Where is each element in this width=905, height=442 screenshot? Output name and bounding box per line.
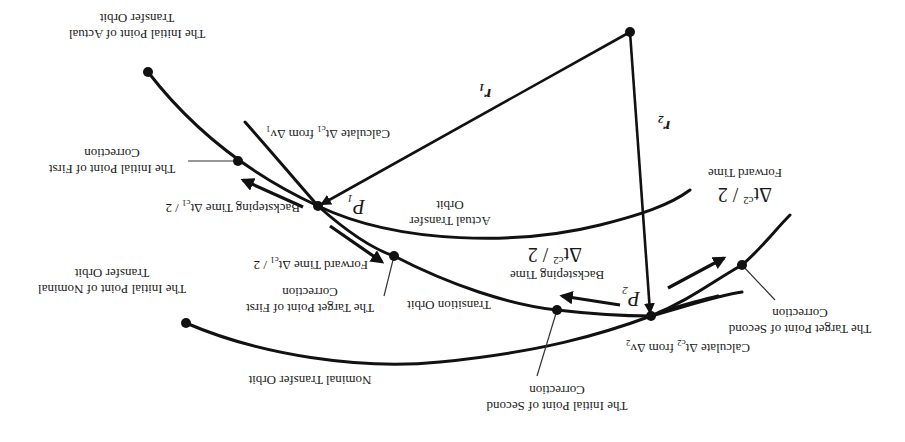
radius-vector-r1 — [322, 32, 630, 204]
label-backstep-2: Backsteping Time Δtc2 / 2 — [510, 244, 604, 283]
point-p2 — [646, 311, 656, 321]
target-point-first-correction — [389, 251, 399, 261]
svg-text:Calculate Δtc1 from Δv1: Calculate Δtc1 from Δv1 — [266, 124, 390, 142]
backstep-arrow-2 — [562, 296, 620, 305]
leader-target-second — [742, 265, 775, 300]
initial-point-first-correction — [233, 156, 243, 166]
svg-text:P1: P1 — [347, 193, 366, 218]
label-initial-second-correction: The Initial Point of Second Correction — [486, 383, 627, 414]
label-r1: r1 — [479, 82, 491, 104]
label-nominal-orbit: Nominal Transfer Orbit — [248, 373, 371, 388]
svg-text:Δtc2 / 2: Δtc2 / 2 — [718, 184, 772, 207]
label-forward-2: Forward Time Δtc2 / 2 — [708, 166, 782, 207]
svg-text:The Initial Point of Second: The Initial Point of Second — [486, 399, 627, 414]
label-calc-1: Calculate Δtc1 from Δv1 — [266, 124, 390, 142]
label-target-second-correction: The Target Point of Second Correction — [728, 306, 871, 337]
svg-text:Transfer Orbit: Transfer Orbit — [74, 266, 149, 281]
svg-text:Forward Time Δtc1 / 2: Forward Time Δtc1 / 2 — [254, 255, 368, 273]
orbit-correction-diagram: The Initial Point of Actual Transfer Orb… — [0, 0, 905, 442]
svg-text:r2: r2 — [657, 114, 670, 136]
svg-text:Transition Orbit: Transition Orbit — [407, 298, 491, 313]
svg-text:Forward Time: Forward Time — [708, 166, 782, 181]
leader-initial-second — [537, 310, 557, 376]
svg-text:The Initial Point of Actual: The Initial Point of Actual — [68, 27, 205, 42]
focus-point — [625, 27, 635, 37]
svg-text:Correction: Correction — [529, 383, 585, 398]
labels: The Initial Point of Actual Transfer Orb… — [38, 11, 872, 414]
label-r2: r2 — [657, 114, 670, 136]
svg-text:Correction: Correction — [772, 306, 828, 321]
label-initial-actual: The Initial Point of Actual Transfer Orb… — [68, 11, 205, 42]
diagram-canvas: The Initial Point of Actual Transfer Orb… — [0, 0, 905, 442]
label-actual-orbit: Actual Transfer Orbit — [409, 198, 491, 229]
label-backstep-1: Backsteping Time Δtc1 / 2 — [165, 198, 300, 216]
target-point-second-correction — [737, 260, 747, 270]
initial-point-nominal — [181, 318, 191, 328]
svg-text:The Target Point of Second: The Target Point of Second — [728, 322, 871, 337]
label-p2: P2 — [622, 285, 641, 310]
label-forward-1: Forward Time Δtc1 / 2 — [254, 255, 368, 273]
initial-point-actual — [143, 67, 153, 77]
label-initial-first-correction: The Initial Point of First Correction — [48, 146, 175, 177]
svg-text:Orbit: Orbit — [436, 198, 464, 213]
label-initial-nominal: The Initial Point of Nominal Transfer Or… — [38, 266, 186, 297]
svg-text:Δtc2 / 2: Δtc2 / 2 — [528, 244, 582, 267]
label-transition-orbit: Transition Orbit — [407, 298, 491, 313]
label-target-first-correction: The Target Point of First Correction — [246, 285, 374, 316]
point-p1 — [313, 201, 323, 211]
svg-text:P2: P2 — [622, 285, 641, 310]
svg-text:Calculate Δtc2 from Δv2: Calculate Δtc2 from Δv2 — [626, 338, 750, 356]
initial-point-second-correction — [552, 305, 562, 315]
svg-text:The Initial Point of First: The Initial Point of First — [48, 162, 175, 177]
svg-text:Correction: Correction — [84, 146, 140, 161]
forward-arrow-1 — [330, 226, 382, 262]
label-calc-2: Calculate Δtc2 from Δv2 — [626, 338, 750, 356]
svg-text:Transfer Orbit: Transfer Orbit — [99, 11, 174, 26]
svg-text:Actual Transfer: Actual Transfer — [409, 214, 491, 229]
svg-text:Correction: Correction — [282, 285, 338, 300]
leader-target-first — [384, 256, 394, 296]
forward-arrow-2 — [668, 258, 724, 288]
svg-text:Nominal Transfer Orbit: Nominal Transfer Orbit — [248, 373, 371, 388]
radius-vector-r2 — [630, 32, 650, 312]
svg-text:Backsteping Time Δtc1 / 2: Backsteping Time Δtc1 / 2 — [165, 198, 300, 216]
svg-text:Backsteping Time: Backsteping Time — [510, 268, 604, 283]
label-p1: P1 — [347, 193, 366, 218]
svg-text:r1: r1 — [479, 82, 491, 104]
svg-text:The Initial Point of Nominal: The Initial Point of Nominal — [38, 282, 186, 297]
svg-text:The Target Point of First: The Target Point of First — [246, 301, 374, 316]
